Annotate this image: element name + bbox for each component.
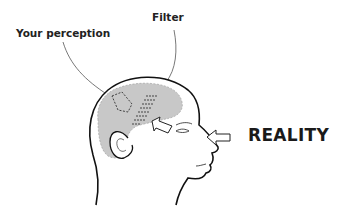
perception-label: Your perception	[16, 27, 110, 39]
filter-label: Filter	[152, 11, 184, 23]
reality-label: REALITY	[248, 125, 329, 145]
eye	[176, 129, 189, 132]
filter-pointer-line	[166, 30, 176, 82]
perception-pointer-line	[63, 42, 108, 95]
